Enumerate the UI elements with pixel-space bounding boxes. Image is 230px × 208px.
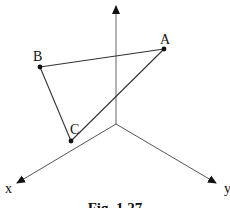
y-axis-label: y — [224, 181, 230, 196]
label-b: B — [33, 49, 42, 64]
label-c: C — [70, 122, 79, 137]
y-axis — [116, 124, 216, 183]
point-c — [69, 139, 74, 144]
x-axis — [17, 124, 116, 183]
edge-bc — [40, 67, 71, 141]
edge-ca — [71, 49, 164, 141]
point-a — [162, 47, 167, 52]
edge-ab — [40, 49, 164, 67]
label-a: A — [160, 32, 171, 47]
figure-caption: Fig. 1.27 — [88, 200, 143, 208]
point-b — [38, 65, 43, 70]
triangle-3d-diagram: A B C x y Fig. 1.27 — [0, 0, 230, 208]
x-axis-label: x — [5, 181, 12, 196]
